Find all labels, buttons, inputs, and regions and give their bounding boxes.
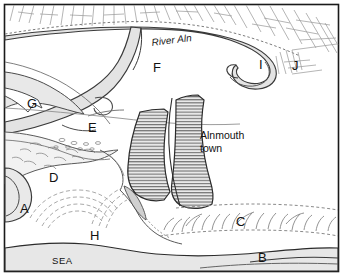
label-E: E: [88, 120, 97, 135]
label-J: J: [292, 58, 299, 73]
label-G: G: [27, 96, 37, 111]
label-A: A: [20, 201, 29, 216]
label-town-name: Alnmouth: [200, 129, 245, 141]
label-C: C: [236, 214, 245, 229]
label-sea: SEA: [52, 255, 73, 266]
map-figure: River Aln F I J G E D A H C B Alnmouth t…: [0, 0, 343, 276]
label-I: I: [259, 57, 263, 72]
label-F: F: [153, 60, 161, 75]
label-B: B: [258, 250, 267, 265]
label-town-line2: town: [200, 142, 222, 154]
label-D: D: [49, 170, 58, 185]
map-canvas: River Aln F I J G E D A H C B Alnmouth t…: [0, 0, 343, 276]
label-H: H: [90, 228, 99, 243]
